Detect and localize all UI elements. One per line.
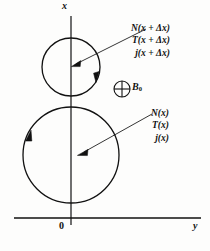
upper-callout-line-1: N(x + Δx)	[131, 24, 170, 34]
upper-callout-arrowhead	[71, 61, 80, 67]
lower-callout-text: N(x) T(x) j(x)	[151, 109, 169, 146]
lower-callout-arrowhead	[77, 149, 88, 155]
upper-callout-text: N(x + Δx) T(x + Δx) j(x + Δx)	[131, 24, 170, 61]
field-label: B0	[132, 82, 142, 93]
upper-callout-line-2: T(x + Δx)	[131, 36, 170, 46]
upper-callout-line-3: j(x + Δx)	[131, 49, 170, 59]
figure-container: x y 0 B0 N(x + Δx) T(x + Δx) j(x + Δx) N…	[0, 0, 210, 251]
lower-callout-line-3: j(x)	[151, 134, 169, 144]
lower-callout-line-1: N(x)	[151, 109, 169, 119]
y-axis-label: y	[193, 221, 197, 232]
origin-label: 0	[59, 221, 64, 232]
field-label-subscript: 0	[139, 85, 142, 92]
x-axis-label: x	[62, 1, 67, 12]
lower-callout-line-2: T(x)	[151, 121, 169, 131]
diagram-canvas	[0, 0, 210, 251]
field-label-symbol: B	[132, 81, 139, 92]
